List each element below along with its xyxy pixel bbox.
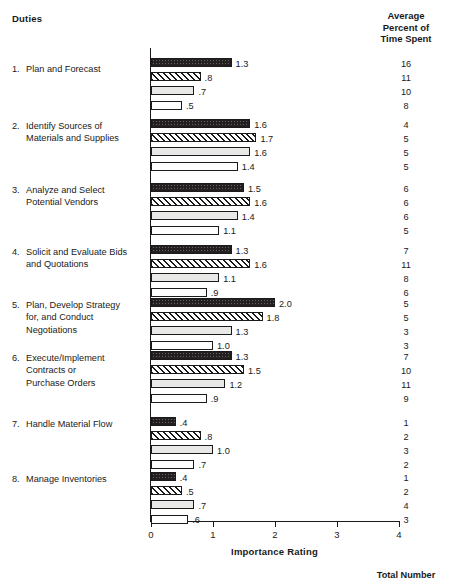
bar-value-duty5-series2: 1.8	[267, 313, 280, 323]
percent-time-duty3-series3: 6	[369, 212, 443, 222]
duty-label-line: and Quotations	[26, 258, 146, 270]
bar-duty2-series4	[151, 162, 238, 171]
duty-label-line: Negotiations	[26, 324, 146, 336]
duty-number-6: 6.	[12, 352, 20, 364]
bar-value-duty7-series1: .4	[180, 418, 188, 428]
bar-value-duty3-series2: 1.6	[254, 198, 267, 208]
bar-duty6-series4	[151, 394, 207, 403]
x-tick-label-1: 1	[210, 529, 215, 540]
bar-value-duty2-series4: 1.4	[242, 162, 255, 172]
percent-time-duty6-series3: 11	[369, 380, 443, 390]
duty-label-line: Execute/Implement	[26, 352, 146, 364]
x-tick-label-2: 2	[272, 529, 277, 540]
percent-time-duty2-series4: 5	[369, 162, 443, 172]
bar-duty7-series3	[151, 445, 213, 454]
percent-time-duty5-series3: 3	[369, 327, 443, 337]
bar-duty6-series1	[151, 351, 232, 360]
bar-value-duty5-series1: 2.0	[279, 299, 292, 309]
bar-duty7-series4	[151, 460, 194, 469]
bar-duty5-series1	[151, 298, 275, 307]
bar-duty1-series4	[151, 101, 182, 110]
duty-label-line: Purchase Orders	[26, 377, 146, 389]
bar-duty8-series2	[151, 486, 182, 495]
duty-label-7: 7.Handle Material Flow	[12, 418, 146, 430]
bar-value-duty7-series3: 1.0	[217, 446, 230, 456]
duty-label-5: 5.Plan, Develop Strategyfor, and Conduct…	[12, 299, 146, 336]
bar-duty7-series1	[151, 417, 176, 426]
bar-value-duty5-series3: 1.3	[236, 327, 249, 337]
bar-duty6-series2	[151, 365, 244, 374]
bar-duty3-series1	[151, 183, 244, 192]
bar-value-duty7-series4: .7	[198, 460, 206, 470]
duty-label-line: Handle Material Flow	[26, 418, 146, 430]
duty-label-line: Manage Inventories	[26, 473, 146, 485]
bar-duty3-series3	[151, 211, 238, 220]
duty-label-line: Analyze and Select	[26, 184, 146, 196]
duty-number-3: 3.	[12, 184, 20, 196]
duty-label-line: Solicit and Evaluate Bids	[26, 246, 146, 258]
x-tick-label-0: 0	[148, 529, 153, 540]
percent-time-duty4-series3: 8	[369, 274, 443, 284]
bar-value-duty3-series4: 1.1	[223, 226, 236, 236]
duty-label-1: 1.Plan and Forecast	[12, 63, 146, 75]
duty-label-8: 8.Manage Inventories	[12, 473, 146, 485]
bar-duty5-series3	[151, 326, 232, 335]
percent-time-duty4-series4: 6	[369, 288, 443, 298]
x-axis-title: Importance Rating	[150, 546, 399, 557]
percent-time-duty7-series4: 2	[369, 460, 443, 470]
duty-number-2: 2.	[12, 120, 20, 132]
percent-time-duty7-series3: 3	[369, 446, 443, 456]
total-number-footer-label: Total Number	[369, 570, 443, 578]
duty-label-line: for, and Conduct	[26, 311, 146, 323]
percent-time-duty3-series2: 6	[369, 198, 443, 208]
duty-number-1: 1.	[12, 63, 20, 75]
bar-value-duty2-series2: 1.7	[260, 134, 273, 144]
x-tick-2	[275, 521, 276, 527]
bar-value-duty6-series2: 1.5	[248, 366, 261, 376]
bar-value-duty8-series3: .7	[198, 501, 206, 511]
bar-value-duty7-series2: .8	[205, 432, 213, 442]
bar-value-duty6-series1: 1.3	[236, 352, 249, 362]
duty-label-6: 6.Execute/ImplementContracts orPurchase …	[12, 352, 146, 389]
bar-duty2-series2	[151, 133, 256, 142]
bar-duty5-series4	[151, 341, 213, 350]
bar-value-duty4-series2: 1.6	[254, 260, 267, 270]
bar-value-duty8-series4: .6	[192, 515, 200, 525]
percent-time-duty6-series2: 10	[369, 366, 443, 376]
bar-value-duty2-series1: 1.6	[254, 120, 267, 130]
percent-time-duty3-series4: 5	[369, 226, 443, 236]
percent-time-duty4-series1: 7	[369, 246, 443, 256]
percent-time-duty6-series1: 7	[369, 352, 443, 362]
percent-time-duty8-series3: 4	[369, 501, 443, 511]
percent-time-duty1-series4: 8	[369, 101, 443, 111]
bar-duty8-series3	[151, 500, 194, 509]
bar-duty4-series1	[151, 245, 232, 254]
duty-number-4: 4.	[12, 246, 20, 258]
bar-value-duty4-series4: .9	[211, 288, 219, 298]
duty-number-8: 8.	[12, 473, 20, 485]
percent-time-duty8-series2: 2	[369, 487, 443, 497]
duty-label-3: 3.Analyze and SelectPotential Vendors	[12, 184, 146, 209]
bar-value-duty1-series3: .7	[198, 87, 206, 97]
duty-label-4: 4.Solicit and Evaluate Bidsand Quotation…	[12, 246, 146, 271]
percent-time-duty2-series2: 5	[369, 134, 443, 144]
bar-value-duty2-series3: 1.6	[254, 148, 267, 158]
bar-duty2-series3	[151, 147, 250, 156]
bar-duty3-series4	[151, 226, 219, 235]
duty-label-line: Potential Vendors	[26, 196, 146, 208]
bar-value-duty6-series3: 1.2	[229, 380, 242, 390]
percent-time-duty7-series1: 1	[369, 418, 443, 428]
bar-duty8-series1	[151, 472, 176, 481]
bar-duty6-series3	[151, 379, 225, 388]
duty-label-line: Contracts or	[26, 364, 146, 376]
duty-label-2: 2.Identify Sources ofMaterials and Suppl…	[12, 120, 146, 145]
bar-duty3-series2	[151, 197, 250, 206]
bar-value-duty1-series2: .8	[205, 73, 213, 83]
percent-time-duty3-series1: 6	[369, 184, 443, 194]
percent-time-duty1-series1: 16	[369, 59, 443, 69]
percent-time-duty5-series1: 5	[369, 299, 443, 309]
percent-time-duty7-series2: 2	[369, 432, 443, 442]
duty-label-line: Plan, Develop Strategy	[26, 299, 146, 311]
bar-value-duty4-series1: 1.3	[236, 246, 249, 256]
bar-value-duty1-series4: .5	[186, 101, 194, 111]
